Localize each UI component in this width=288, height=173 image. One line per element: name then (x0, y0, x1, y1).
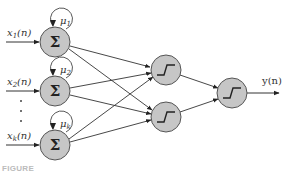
feedback-label-k: μk (60, 118, 71, 131)
input-label-1: x1(n) (7, 27, 31, 40)
output-node (217, 78, 247, 108)
input-label-k: xk(n) (7, 130, 31, 143)
figure-caption: FIGURE (2, 164, 34, 173)
hidden-node-2 (151, 102, 181, 132)
neural-network-diagram: x1(n) x2(n) xk(n) y(n) μ1 μ2 μk Σ (0, 0, 288, 173)
edges-to-output (180, 75, 218, 112)
sigma-icon: Σ (50, 33, 61, 51)
feedback-label-1: μ1 (60, 15, 71, 28)
sigma-icon: Σ (50, 136, 61, 154)
input-label-2: x2(n) (7, 76, 31, 89)
feedback-label-2: μ2 (60, 64, 72, 77)
summing-node-2: Σ (40, 76, 70, 106)
summing-node-1: Σ (40, 27, 70, 57)
hidden-node-1 (151, 55, 181, 85)
edges-to-hidden (69, 46, 153, 142)
output-label: y(n) (261, 75, 282, 86)
sigma-icon: Σ (50, 82, 61, 100)
summing-node-k: Σ (40, 130, 70, 160)
ellipsis-dots (20, 100, 22, 122)
